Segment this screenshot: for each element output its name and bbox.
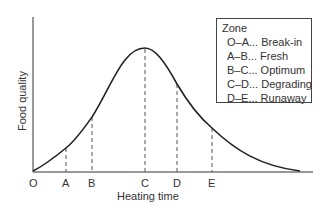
zone-legend: Zone O–A... Break-in A–B... Fresh B–C...… [216, 18, 312, 103]
tick-b: B [88, 177, 95, 189]
dashed-markers [66, 49, 212, 172]
legend-row-fresh: A–B... Fresh [222, 49, 311, 63]
y-axis-title: Food quality [16, 71, 28, 131]
tick-e: E [208, 177, 215, 189]
tick-o: O [29, 177, 38, 189]
legend-row-break-in: O–A... Break-in [222, 35, 311, 49]
legend-row-degrading: C–D... Degrading [222, 77, 311, 91]
legend-row-optimum: B–C... Optimum [222, 63, 311, 77]
legend-row-runaway: D–E... Runaway [222, 91, 311, 105]
x-axis-title: Heating time [117, 190, 179, 202]
legend-title: Zone [222, 21, 311, 35]
tick-d: D [173, 177, 181, 189]
tick-a: A [62, 177, 70, 189]
tick-c: C [141, 177, 149, 189]
